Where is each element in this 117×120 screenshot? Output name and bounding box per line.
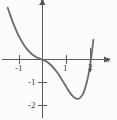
graph-figure: -1 1 2 -1 -2 x y <box>0 0 117 120</box>
y-tick-label-neg1: -1 <box>28 78 36 87</box>
y-tick-label-neg2: -2 <box>28 101 36 110</box>
graph-canvas <box>0 0 117 120</box>
x-axis-label: x <box>106 55 110 64</box>
x-tick-label-1: 1 <box>63 64 68 73</box>
function-curve <box>8 8 94 99</box>
x-tick-label-neg1: -1 <box>15 64 23 73</box>
y-axis-label: y <box>40 0 44 5</box>
x-tick-label-2: 2 <box>88 63 93 72</box>
